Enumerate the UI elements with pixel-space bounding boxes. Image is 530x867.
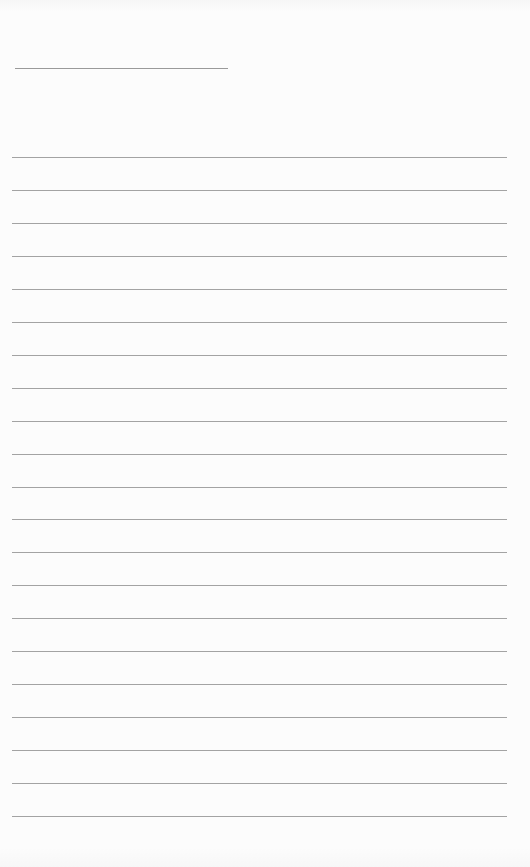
- ruled-line: [12, 223, 507, 224]
- ruled-line: [12, 322, 507, 323]
- ruled-line: [12, 684, 507, 685]
- ruled-line: [12, 190, 507, 191]
- ruled-line: [12, 651, 507, 652]
- ruled-line: [12, 289, 507, 290]
- ruled-line: [12, 421, 507, 422]
- title-blank-line: [15, 68, 228, 69]
- ruled-line: [12, 750, 507, 751]
- ruled-line: [12, 355, 507, 356]
- ruled-line: [12, 717, 507, 718]
- ruled-line: [12, 388, 507, 389]
- ruled-line: [12, 256, 507, 257]
- ruled-line: [12, 487, 507, 488]
- ruled-line: [12, 519, 507, 520]
- ruled-line: [12, 816, 507, 817]
- ruled-line: [12, 157, 507, 158]
- ruled-line: [12, 618, 507, 619]
- ruled-line: [12, 585, 507, 586]
- ruled-line: [12, 552, 507, 553]
- ruled-line: [12, 454, 507, 455]
- lined-paper-sheet: [0, 0, 530, 867]
- ruled-line: [12, 783, 507, 784]
